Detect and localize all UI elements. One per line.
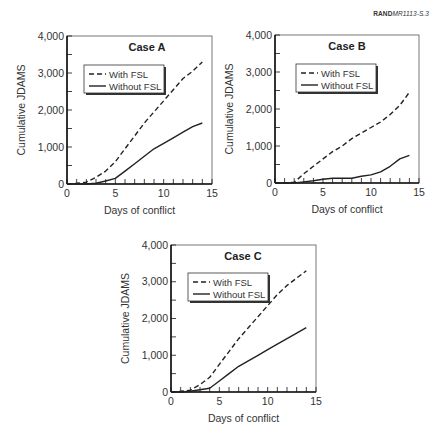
y-tick-label: 1,000 (142, 349, 168, 361)
series-with-fsl (275, 92, 409, 183)
y-axis-label: Cumulative JDAMS (119, 273, 131, 364)
x-tick-label: 5 (216, 395, 222, 407)
legend-label: With FSL (109, 69, 148, 80)
y-tick-label: 2,000 (38, 104, 64, 116)
y-axis-label: Cumulative JDAMS (223, 63, 235, 154)
series-without-fsl (67, 123, 202, 184)
y-tick-label: 4,000 (246, 29, 272, 41)
y-tick-label: 2,000 (246, 103, 272, 115)
x-tick-label: 10 (262, 395, 274, 407)
series-without-fsl (171, 328, 306, 392)
x-tick-label: 5 (320, 186, 326, 198)
chart-case-a: 01,0002,0003,0004,000051015Days of confl… (15, 30, 218, 217)
y-axis-label: Cumulative JDAMS (15, 64, 27, 155)
y-tick-label: 3,000 (142, 275, 168, 287)
series-without-fsl (275, 155, 409, 183)
x-tick-label: 0 (64, 187, 70, 199)
figure-canvas: 01,0002,0003,0004,000051015Days of confl… (0, 0, 440, 438)
legend-label: Without FSL (321, 80, 373, 91)
x-tick-label: 0 (272, 186, 278, 198)
chart-title: Case B (328, 40, 365, 52)
y-tick-label: 4,000 (38, 30, 64, 42)
x-tick-label: 0 (168, 395, 174, 407)
chart-title: Case C (224, 250, 261, 262)
legend-label: With FSL (321, 68, 360, 79)
x-tick-label: 10 (158, 187, 170, 199)
y-tick-label: 3,000 (246, 66, 272, 78)
x-tick-label: 5 (112, 187, 118, 199)
x-axis-label: Days of conflict (208, 412, 279, 424)
legend-label: Without FSL (109, 81, 161, 92)
legend-label: Without FSL (213, 289, 265, 300)
chart-case-b: 01,0002,0003,0004,000051015Days of confl… (223, 29, 425, 216)
x-tick-label: 10 (365, 186, 377, 198)
y-tick-label: 3,000 (38, 67, 64, 79)
x-axis-label: Days of conflict (311, 203, 382, 215)
x-tick-label: 15 (206, 187, 218, 199)
y-tick-label: 4,000 (142, 239, 168, 251)
x-tick-label: 15 (310, 395, 322, 407)
plot-frame (67, 36, 212, 184)
x-tick-label: 15 (413, 186, 425, 198)
plot-frame (171, 245, 316, 392)
chart-case-c: 01,0002,0003,0004,000051015Days of confl… (119, 239, 322, 425)
chart-title: Case A (129, 41, 166, 53)
legend-label: With FSL (213, 277, 252, 288)
x-axis-label: Days of conflict (104, 204, 175, 216)
y-tick-label: 1,000 (246, 140, 272, 152)
y-tick-label: 1,000 (38, 141, 64, 153)
y-tick-label: 2,000 (142, 312, 168, 324)
